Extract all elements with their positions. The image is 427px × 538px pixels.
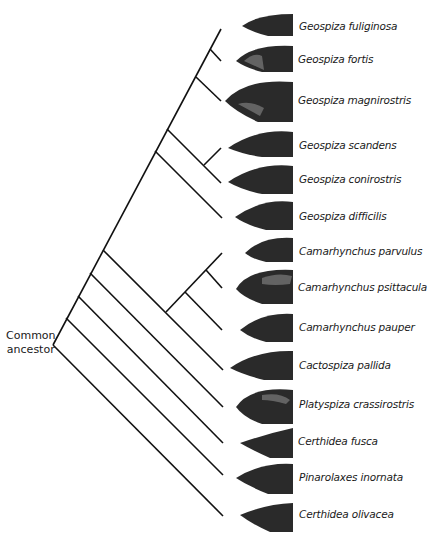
- bird-head-icon: [236, 46, 293, 72]
- bird-head-icon: [242, 14, 293, 36]
- bird-head-icon: [245, 238, 293, 262]
- species-label: Platyspiza crassirostris: [299, 398, 414, 410]
- species-label: Cactospiza pallida: [299, 359, 391, 371]
- species-label: Geospiza scandens: [299, 139, 397, 151]
- species-label: Camarhynchus pauper: [299, 321, 415, 333]
- species-label: Geospiza magnirostris: [298, 94, 411, 106]
- bird-head-icon: [225, 81, 293, 122]
- species-label: Certhidea fusca: [298, 435, 378, 447]
- root-label-line1: Common: [6, 329, 56, 343]
- bird-head-icon: [236, 464, 293, 494]
- tree-branches: [53, 29, 223, 516]
- species-label: Camarhynchus psittacula: [298, 281, 427, 293]
- root-label-line2: ancestor: [6, 343, 56, 357]
- species-label: Geospiza conirostris: [299, 173, 401, 185]
- bird-head-icon: [228, 131, 293, 157]
- bird-head-icon: [230, 351, 293, 380]
- bird-head-icon: [240, 503, 293, 532]
- species-label: Certhidea olivacea: [299, 508, 394, 520]
- species-label: Geospiza fuliginosa: [299, 20, 397, 32]
- bird-head-icon: [228, 165, 293, 194]
- bird-head-icon: [240, 314, 293, 342]
- bird-head-icon: [235, 201, 293, 230]
- species-label: Geospiza fortis: [298, 53, 373, 65]
- common-ancestor-label: Common ancestor: [6, 329, 56, 357]
- species-label: Pinarolaxes inornata: [299, 471, 403, 483]
- bird-head-icon: [240, 428, 293, 458]
- species-label: Geospiza difficilis: [299, 210, 386, 222]
- bird-heads: [225, 14, 293, 532]
- species-label: Camarhynchus parvulus: [299, 245, 422, 257]
- bird-head-icon: [236, 389, 293, 424]
